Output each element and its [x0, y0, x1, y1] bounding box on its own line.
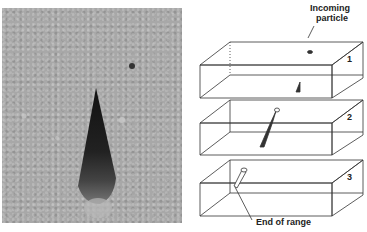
incoming-particle-label: Incoming particle [310, 3, 350, 23]
incoming-arrow [308, 26, 314, 38]
end-of-range-label: End of range [256, 217, 311, 227]
detector-diagram: Incoming particle 1 2 3 End of range [190, 0, 367, 232]
box-1 [200, 42, 363, 98]
end-of-range-leader [235, 187, 252, 220]
incoming-label-line2: particle [310, 13, 350, 23]
box-3-number: 3 [347, 172, 352, 182]
box-2-number: 2 [347, 112, 352, 122]
incoming-label-line1: Incoming [310, 3, 350, 13]
particle-track-streak [2, 8, 182, 223]
emulsion-track-photo [2, 8, 182, 223]
box-3 [200, 160, 363, 220]
box-2 [200, 100, 363, 155]
box-1-number: 1 [347, 54, 352, 64]
